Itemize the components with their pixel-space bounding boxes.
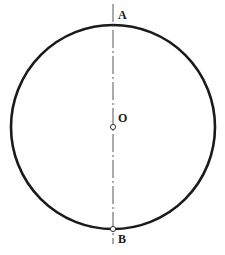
point-b-label: B: [118, 233, 126, 245]
point-a-label: A: [118, 9, 127, 21]
center-point-o-marker: [110, 124, 115, 129]
point-b-marker: [110, 226, 115, 231]
diagram-canvas: A O B: [0, 0, 225, 255]
center-o-label: O: [118, 112, 127, 124]
circle-diagram: [0, 0, 225, 255]
